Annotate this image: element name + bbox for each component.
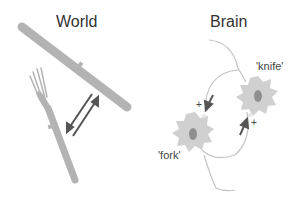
world-title: World	[56, 13, 98, 31]
fork-neuron-label: 'fork'	[158, 149, 181, 161]
bidirectional-arrows-icon	[67, 94, 98, 136]
axon-lines	[202, 40, 248, 191]
synapse-arrow-up	[240, 119, 248, 135]
brain-title: Brain	[210, 13, 247, 31]
knife-neuron	[236, 76, 278, 116]
plus-sign-top: +	[196, 99, 202, 110]
diagram-canvas	[0, 0, 307, 205]
knife-neuron-label: 'knife'	[256, 60, 283, 72]
plus-sign-bottom: +	[251, 117, 257, 128]
fork-neuron	[172, 112, 214, 152]
